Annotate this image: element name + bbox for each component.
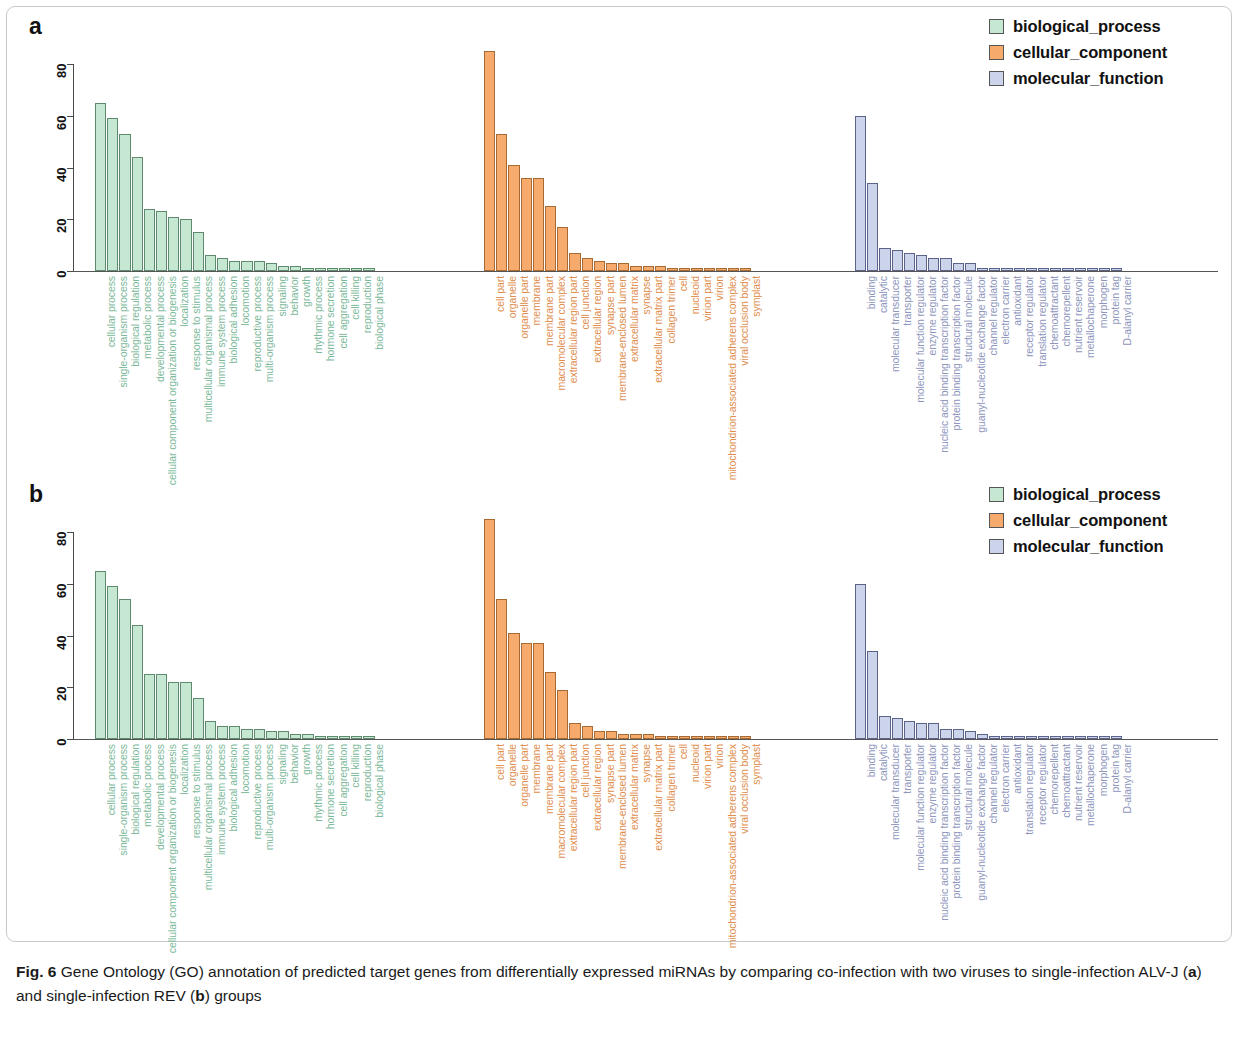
x-axis-category-label: synapse [640,744,652,782]
x-axis-category-label: collagen trimer [665,276,677,343]
bar [1050,736,1061,739]
bar [508,633,519,739]
x-axis-category-label: single-organism process [117,744,129,856]
x-axis-category-label: enzyme regulator [926,276,938,356]
x-axis-category-label: metabolic process [141,276,153,359]
x-axis-category-label: cell part [494,744,506,780]
x-axis-category-label: macromolecular complex [555,744,567,859]
bar [521,643,532,739]
bar [266,731,277,739]
x-axis-category-label: cell killing [349,276,361,320]
x-axis-category-label: morphogen [1097,744,1109,796]
bar [144,674,155,739]
x-axis-category-label: guanyl-nucleotide exchange factor [975,276,987,433]
x-axis-category-label: reproductive process [251,744,263,839]
x-axis-category-label: biological phase [373,744,385,818]
x-axis-category-label: symplast [750,276,762,317]
bar [557,690,568,739]
panel-b: b biological_process cellular_component … [7,475,1233,943]
x-axis-category-label: cellular process [105,744,117,815]
bar [1001,736,1012,739]
x-axis-category-label: cell aggregation [337,744,349,817]
figure-page: a biological_process cellular_component … [0,0,1238,1045]
bar [965,263,976,271]
bar [606,263,617,271]
bar [205,255,216,271]
bar [1026,268,1037,271]
bar [363,268,374,271]
y-axis-tick-label: 60 [54,583,69,611]
bar [1075,268,1086,271]
x-axis-category-label: response to stimulus [190,276,202,370]
bar [107,118,118,271]
bar [351,736,362,739]
x-axis-category-label: organelle part [518,276,530,339]
bar [716,268,727,271]
bar [315,736,326,739]
x-axis-category-label: response to stimulus [190,744,202,838]
x-axis-category-label: membrane [530,276,542,325]
x-axis-category-label: locomotion [239,744,251,794]
bar [569,723,580,739]
bar [254,261,265,271]
bar [168,682,179,739]
x-axis-category-label: organelle [506,744,518,786]
bar [704,268,715,271]
bar [363,736,374,739]
x-axis-category-label: immune system process [215,276,227,387]
x-axis-category-label: channel regulator [987,744,999,823]
x-axis-category-label: molecular function regulator [914,276,926,403]
bar [545,206,556,271]
bar [193,698,204,739]
bar [655,736,666,739]
x-axis-category-label: biological regulation [129,276,141,367]
x-axis-category-label: extracellular matrix [628,744,640,830]
bar [266,263,277,271]
x-axis-category-label: binding [865,276,877,309]
bar [630,266,641,271]
bar [904,253,915,271]
x-axis-category-label: molecular transducer [889,276,901,372]
bar [643,734,654,739]
bar [667,268,678,271]
x-axis-category-label: receptor regulator [1023,276,1035,357]
x-axis-category-label: immune system process [215,744,227,855]
x-axis-category-label: channel regulator [987,276,999,355]
bar [119,599,130,739]
figure-frame: a biological_process cellular_component … [6,6,1232,942]
bar [892,718,903,739]
x-axis-category-label: synapse [640,276,652,314]
x-axis-category-label: nucleic acid binding transcription facto… [938,276,950,453]
bar [916,255,927,271]
bar [643,266,654,271]
bar [205,721,216,739]
bar [855,584,866,739]
bar [667,736,678,739]
bar [892,250,903,271]
bar [302,268,313,271]
x-axis-category-label: membrane part [543,276,555,346]
x-axis-category-label: transporter [901,744,913,794]
bar [691,268,702,271]
x-axis-category-label: hormone secretion [324,276,336,361]
bar [977,268,988,271]
x-axis-category-label: receptor regulator [1036,744,1048,825]
bar [855,116,866,271]
x-axis-category-label: mitochondrion-associated adherens comple… [726,744,738,948]
bar [582,258,593,271]
y-axis-line [73,64,74,272]
bar [217,258,228,271]
x-axis-category-label: extracellular matrix part [652,744,664,851]
x-axis-category-label: macromolecular complex [555,276,567,391]
x-axis-category-label: structural molecule [962,276,974,362]
x-axis-category-label: synapse part [604,276,616,335]
x-axis-category-label: virion part [701,276,713,321]
x-axis-category-label: extracellular region [591,276,603,363]
bar [1099,736,1110,739]
bar [630,734,641,739]
bar [241,261,252,271]
x-axis-category-label: molecular function regulator [914,744,926,871]
x-axis-category-label: locomotion [239,276,251,326]
y-axis-tick-label: 0 [54,271,69,299]
bar [940,729,951,739]
